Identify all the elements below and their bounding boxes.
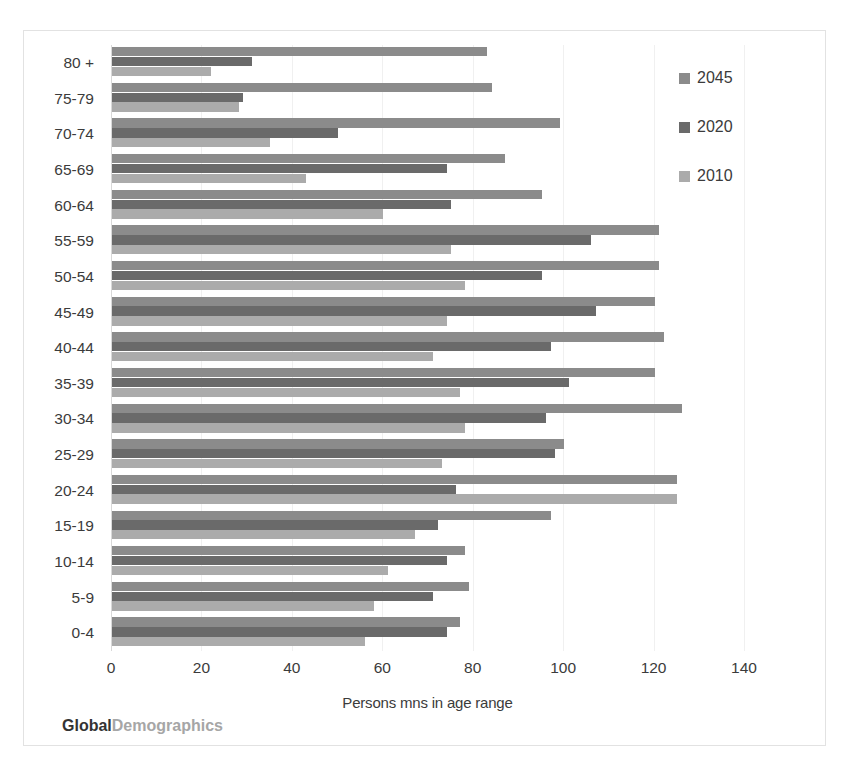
y-axis-label: 80 + — [63, 45, 94, 81]
bar-2020-70-74 — [112, 128, 338, 137]
y-axis-label: 60-64 — [54, 188, 94, 224]
bar-2020-0-4 — [112, 627, 447, 636]
bar-2010-30-34 — [112, 423, 465, 432]
legend-entry-2045[interactable]: 2045 — [679, 69, 799, 118]
bar-2010-25-29 — [112, 459, 442, 468]
bar-2020-55-59 — [112, 235, 591, 244]
bar-groups — [112, 45, 744, 651]
bar-group — [112, 401, 744, 437]
bar-2010-35-39 — [112, 388, 460, 397]
bar-group — [112, 473, 744, 509]
y-axis-labels: 80 +75-7970-7465-6960-6455-5950-5445-494… — [24, 45, 104, 651]
x-axis-tick: 140 — [731, 659, 757, 677]
x-axis-tick-labels: 020406080100120140 — [111, 659, 744, 683]
bar-2010-70-74 — [112, 138, 270, 147]
bar-2045-75-79 — [112, 83, 492, 92]
legend-entry-2010[interactable]: 2010 — [679, 167, 799, 216]
bar-group — [112, 615, 744, 651]
bar-2020-10-14 — [112, 556, 447, 565]
y-axis-label: 55-59 — [54, 223, 94, 259]
legend-entry-2020[interactable]: 2020 — [679, 118, 799, 167]
x-axis-tick: 100 — [550, 659, 576, 677]
bar-2045-0-4 — [112, 617, 460, 626]
bar-2045-65-69 — [112, 154, 505, 163]
bar-2020-80 — [112, 57, 252, 66]
y-axis-label: 65-69 — [54, 152, 94, 188]
bar-group — [112, 116, 744, 152]
bar-2045-70-74 — [112, 118, 560, 127]
x-axis-tick: 0 — [107, 659, 116, 677]
bar-2020-5-9 — [112, 592, 433, 601]
bar-2020-65-69 — [112, 164, 447, 173]
y-axis-label: 20-24 — [54, 473, 94, 509]
bar-group — [112, 580, 744, 616]
bar-2010-40-44 — [112, 352, 433, 361]
bar-group — [112, 366, 744, 402]
y-axis-label: 35-39 — [54, 366, 94, 402]
bar-2045-40-44 — [112, 332, 664, 341]
bar-2045-10-14 — [112, 546, 465, 555]
bar-2020-45-49 — [112, 306, 596, 315]
bar-2010-45-49 — [112, 316, 447, 325]
bar-group — [112, 223, 744, 259]
bar-2010-60-64 — [112, 209, 383, 218]
legend-swatch-icon — [679, 122, 690, 133]
bar-2020-50-54 — [112, 271, 542, 280]
bar-group — [112, 544, 744, 580]
y-axis-label: 0-4 — [72, 615, 94, 651]
bar-group — [112, 294, 744, 330]
legend-label: 2010 — [697, 167, 733, 185]
watermark: GlobalDemographics — [62, 717, 223, 735]
legend-swatch-icon — [679, 73, 690, 84]
bar-2045-5-9 — [112, 582, 469, 591]
x-axis-tick: 60 — [374, 659, 391, 677]
y-axis-label: 5-9 — [72, 580, 94, 616]
bar-2010-20-24 — [112, 494, 677, 503]
bar-2010-65-69 — [112, 174, 306, 183]
chart-figure: 80 +75-7970-7465-6960-6455-5950-5445-494… — [0, 0, 853, 776]
watermark-secondary: Demographics — [112, 717, 223, 734]
bar-2045-50-54 — [112, 261, 659, 270]
bar-2020-25-29 — [112, 449, 555, 458]
y-axis-label: 25-29 — [54, 437, 94, 473]
y-axis-label: 30-34 — [54, 401, 94, 437]
bar-group — [112, 330, 744, 366]
bar-2045-55-59 — [112, 225, 659, 234]
bar-2010-5-9 — [112, 601, 374, 610]
bar-2045-20-24 — [112, 475, 677, 484]
bar-2020-60-64 — [112, 200, 451, 209]
bar-2020-30-34 — [112, 413, 546, 422]
bar-2020-15-19 — [112, 520, 438, 529]
x-axis-tick: 20 — [193, 659, 210, 677]
y-axis-label: 50-54 — [54, 259, 94, 295]
x-axis-title: Persons mns in age range — [111, 694, 744, 711]
bar-2010-75-79 — [112, 102, 239, 111]
bar-group — [112, 81, 744, 117]
x-axis-tick: 120 — [641, 659, 667, 677]
watermark-primary: Global — [62, 717, 112, 734]
bar-2020-35-39 — [112, 378, 569, 387]
bar-2045-25-29 — [112, 439, 564, 448]
legend-label: 2020 — [697, 118, 733, 136]
bar-2045-60-64 — [112, 190, 542, 199]
bar-2010-80 — [112, 67, 211, 76]
bar-2045-35-39 — [112, 368, 655, 377]
bar-group — [112, 508, 744, 544]
chart-frame: 80 +75-7970-7465-6960-6455-5950-5445-494… — [23, 30, 826, 746]
y-axis-label: 45-49 — [54, 295, 94, 331]
y-axis-label: 75-79 — [54, 81, 94, 117]
legend-swatch-icon — [679, 171, 690, 182]
y-axis-label: 15-19 — [54, 508, 94, 544]
bar-2010-10-14 — [112, 566, 388, 575]
x-axis-tick: 40 — [283, 659, 300, 677]
bar-group — [112, 152, 744, 188]
bar-2020-75-79 — [112, 93, 243, 102]
bar-group — [112, 437, 744, 473]
chart-legend: 204520202010 — [679, 69, 799, 216]
bar-2045-80 — [112, 47, 487, 56]
bar-2045-45-49 — [112, 297, 655, 306]
bar-2020-20-24 — [112, 485, 456, 494]
bar-2010-50-54 — [112, 281, 465, 290]
bar-2010-55-59 — [112, 245, 451, 254]
y-axis-label: 10-14 — [54, 544, 94, 580]
